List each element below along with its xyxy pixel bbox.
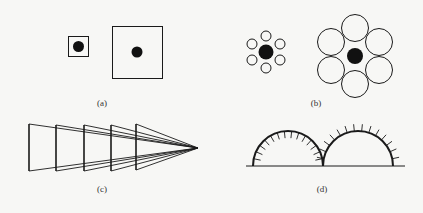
center-dot-large-surround [347,48,363,64]
small-surround-circle [261,31,271,41]
outward-ticks [317,124,399,158]
large-surround-circle [318,57,345,84]
small-surround-circle [247,55,257,65]
dot-in-small-square [73,41,84,52]
large-surround-circle [342,71,369,98]
panel-d [246,124,405,166]
large-surround-circle [366,57,393,84]
label-b: (b) [311,98,322,108]
large-surround-circle [366,29,393,56]
panel-c [29,124,198,171]
label-a: (a) [97,98,107,108]
small-surround-circle [275,55,285,65]
panel-b [247,15,393,98]
large-surround-circle [342,15,369,42]
small-surround-circle [247,39,257,49]
dot-in-large-square [132,47,143,58]
inward-ticks [254,131,322,160]
small-surround-circle [275,39,285,49]
converging-lines [29,124,198,171]
label-c: (c) [97,184,107,194]
large-surround-circle [318,29,345,56]
label-d: (d) [317,184,328,194]
illusion-figure: (a) (b) [0,0,423,213]
small-surround-circle [261,63,271,73]
panel-a [69,27,163,79]
right-semicircle [323,131,393,166]
center-dot-small-surround [259,45,274,60]
